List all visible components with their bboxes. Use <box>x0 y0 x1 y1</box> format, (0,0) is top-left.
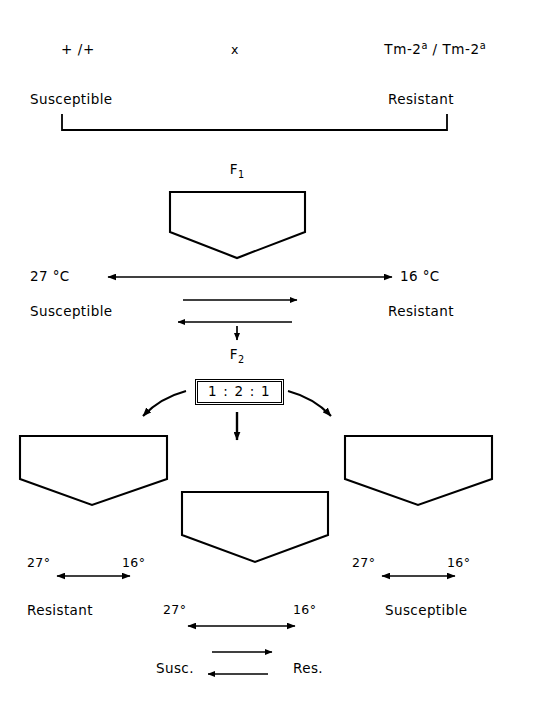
f1-left-phenotype: Susceptible <box>30 305 113 319</box>
f2-left-genotype: Tm-2a / Tm-2a <box>37 459 138 475</box>
f2-center-phenotype-resistant: Res. <box>293 662 323 676</box>
f1-reciprocal-arrows <box>178 300 297 322</box>
parent-right-genotype-text: Tm-2 <box>384 41 421 57</box>
f1-right-temperature: 16 °C <box>400 270 440 284</box>
f2-right-genotype: + / + <box>395 459 434 475</box>
parent-cross-bracket <box>62 114 447 130</box>
parent-left-phenotype: Susceptible <box>30 93 113 107</box>
f1-generation-label: F1 <box>230 163 244 177</box>
f1-letter: F <box>230 161 238 177</box>
f1-subscript: 1 <box>238 169 244 180</box>
f1-right-phenotype: Resistant <box>388 305 454 319</box>
f2-center-reciprocal-arrows <box>208 652 272 674</box>
f1-genotype: Tm-2a / + <box>202 214 272 230</box>
f2-ratio-value: 1 : 2 : 1 <box>197 381 282 403</box>
f2-left-sup-2: a <box>133 458 139 469</box>
f2-center-phenotype-susceptible: Susc. <box>156 662 194 676</box>
f2-left-genotype-text: Tm-2 <box>37 459 74 475</box>
cross-symbol: x <box>231 44 239 57</box>
f1-genotype-suffix: / + <box>245 214 272 230</box>
f2-ratio-box: 1 : 2 : 1 <box>195 379 284 405</box>
parent-right-genotype-sep: / Tm-2 <box>428 41 480 57</box>
f1-genotype-text: Tm-2 <box>202 214 239 230</box>
f2-left-temperature-high: 16° <box>122 557 145 570</box>
f2-right-phenotype: Susceptible <box>385 604 468 618</box>
parent-left-genotype: + /+ <box>61 43 95 57</box>
f2-center-temperature-high: 16° <box>293 604 316 617</box>
genetic-cross-diagram: + /+ x Tm-2a / Tm-2a Susceptible Resista… <box>0 0 533 712</box>
f1-left-temperature: 27 °C <box>30 270 70 284</box>
f2-subscript: 2 <box>238 354 244 365</box>
f2-generation-label: F2 <box>230 348 244 362</box>
f2-left-phenotype: Resistant <box>27 604 93 618</box>
f2-letter: F <box>230 346 238 362</box>
parent-right-genotype: Tm-2a / Tm-2a <box>384 43 485 57</box>
f2-center-genotype-suffix: / + <box>276 516 303 532</box>
f2-left-genotype-sep: / Tm-2 <box>81 459 133 475</box>
parent-right-phenotype: Resistant <box>388 93 454 107</box>
f2-center-genotype: Tm-2a / + <box>233 516 303 532</box>
f2-center-temperature-low: 27° <box>163 604 186 617</box>
f2-right-temperature-high: 16° <box>447 557 470 570</box>
allele-superscript-a-2: a <box>480 40 486 51</box>
f2-right-temperature-low: 27° <box>352 557 375 570</box>
f2-left-temperature-low: 27° <box>27 557 50 570</box>
f2-center-genotype-text: Tm-2 <box>233 516 270 532</box>
